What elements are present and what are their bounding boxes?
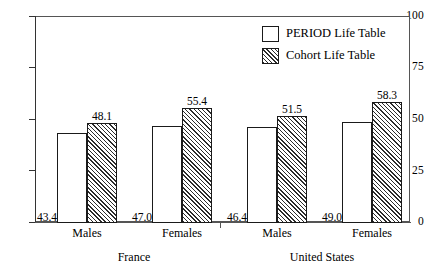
bar-value-france-females-cohort: 55.4	[187, 95, 207, 107]
bar-value-us-males-cohort: 51.5	[282, 103, 302, 115]
legend-item-cohort: Cohort Life Table	[262, 47, 386, 64]
legend-label-period: PERIOD Life Table	[286, 27, 386, 40]
legend-item-period: PERIOD Life Table	[262, 25, 386, 42]
bar-value-france-males-period: 43.4	[37, 211, 57, 223]
bar-value-france-males-cohort: 48.1	[92, 110, 112, 122]
bar-us-males-period: 46.4	[247, 127, 277, 223]
caption-fragment	[4, 270, 304, 278]
legend-swatch-period-icon	[262, 26, 279, 42]
x-axis-label-us-males: Males	[262, 226, 291, 240]
bar-france-females-cohort: 55.4	[182, 108, 212, 223]
x-axis-label-us-females: Females	[352, 226, 392, 240]
bar-value-us-females-cohort: 58.3	[377, 89, 397, 101]
bar-france-males-period: 43.4	[57, 133, 87, 223]
bar-us-males-cohort: 51.5	[277, 116, 307, 223]
legend-swatch-cohort-icon	[262, 48, 279, 64]
bar-value-france-females-period: 47.0	[132, 211, 152, 223]
bar-value-us-females-period: 49.0	[322, 211, 342, 223]
bar-france-females-period: 47.0	[152, 126, 182, 223]
bar-us-females-cohort: 58.3	[372, 102, 402, 223]
x-axis-group-label-france: France	[118, 250, 151, 264]
legend: PERIOD Life Table Cohort Life Table	[262, 25, 386, 69]
bar-value-us-males-period: 46.4	[227, 211, 247, 223]
x-axis-group-label-united-states: United States	[290, 250, 354, 264]
bar-us-females-period: 49.0	[342, 122, 372, 223]
x-axis-group-separator-tick	[220, 222, 221, 228]
bar-chart: 100 75 50 25 0 43.4 48.1 47.0 55.4 46.4 …	[0, 0, 424, 278]
x-axis-label-france-females: Females	[162, 226, 202, 240]
x-axis-label-france-males: Males	[72, 226, 101, 240]
bar-france-males-cohort: 48.1	[87, 123, 117, 223]
legend-label-cohort: Cohort Life Table	[286, 49, 375, 62]
